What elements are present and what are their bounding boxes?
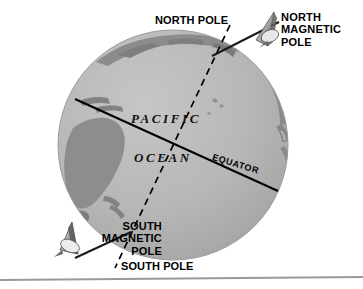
north-magnetic-pole-marker bbox=[256, 12, 281, 48]
north-pole-label: NORTH POLE bbox=[155, 14, 228, 26]
south-pole-label: SOUTH POLE bbox=[121, 260, 194, 272]
pacific-ocean-label-line1: PACIFIC bbox=[131, 112, 201, 127]
south-magnetic-pole-label: SOUTH MAGNETIC POLE bbox=[0, 220, 162, 257]
pacific-ocean-label-line2: OCEAN bbox=[134, 151, 192, 166]
earth-magnetic-poles-diagram: NORTH POLE NORTH MAGNETIC POLE SOUTH MAG… bbox=[0, 0, 363, 289]
bottom-border-line bbox=[0, 277, 363, 280]
north-magnetic-pole-label: NORTH MAGNETIC POLE bbox=[281, 11, 341, 48]
